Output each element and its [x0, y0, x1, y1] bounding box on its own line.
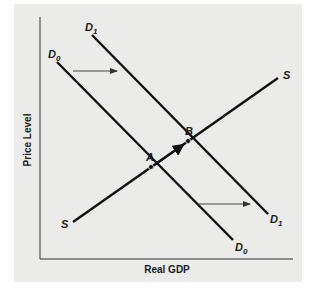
label-d1-bottom: D1: [270, 213, 283, 228]
label-point-a: A: [145, 151, 154, 163]
movement-arrow-a-to-b: [153, 145, 183, 166]
label-d1-top: D1: [85, 21, 98, 36]
label-point-b: B: [185, 125, 193, 137]
label-d0-bottom: D0: [235, 241, 248, 256]
label-d0-top: D0: [48, 48, 61, 63]
ad-as-diagram: Price Level Real GDP D0 D1 D0 D1 S S A B: [0, 0, 317, 298]
point-a: [149, 165, 154, 170]
label-s-bottom: S: [61, 218, 69, 230]
label-s-top: S: [283, 69, 291, 81]
point-b: [186, 139, 191, 144]
y-axis-label: Price Level: [22, 113, 33, 166]
x-axis-label: Real GDP: [144, 264, 190, 275]
diagram-root: Price Level Real GDP D0 D1 D0 D1 S S A B: [0, 0, 317, 298]
